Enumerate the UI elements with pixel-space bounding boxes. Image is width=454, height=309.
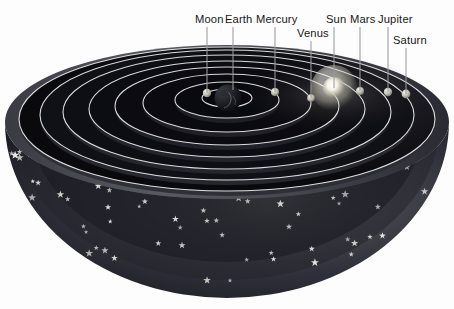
body-earth xyxy=(215,85,242,112)
orbit-terraces xyxy=(5,45,449,199)
earth-globe xyxy=(215,85,242,112)
solar-system-figure: MoonEarthMercuryVenusSunMarsJupiterSatur… xyxy=(0,0,454,309)
label-mercury: Mercury xyxy=(256,13,298,25)
label-moon: Moon xyxy=(195,13,224,25)
label-saturn: Saturn xyxy=(393,34,427,46)
label-earth: Earth xyxy=(225,13,253,25)
label-mars: Mars xyxy=(350,13,376,25)
label-venus: Venus xyxy=(297,27,329,39)
label-sun: Sun xyxy=(326,13,346,25)
solar-system-svg: MoonEarthMercuryVenusSunMarsJupiterSatur… xyxy=(0,0,454,309)
label-jupiter: Jupiter xyxy=(378,13,413,25)
earth-shading xyxy=(220,89,229,96)
